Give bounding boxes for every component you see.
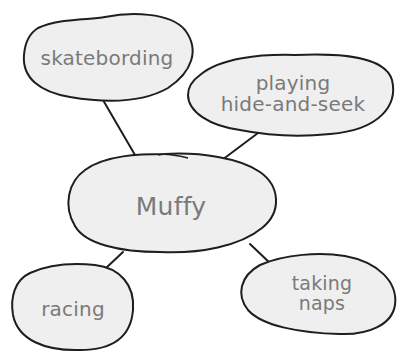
node-label-skateboarding: skatebording: [41, 48, 174, 69]
concept-map: skatebording playing hide-and-seek Muffy…: [0, 0, 411, 360]
connector-hide-and-seek: [222, 130, 262, 160]
node-label-taking-naps: taking naps: [292, 274, 353, 314]
connector-skateboarding: [103, 100, 135, 155]
connector-racing: [105, 252, 123, 269]
skateboarding-text: skatebording: [41, 46, 174, 70]
taking-naps-line2: naps: [292, 294, 353, 314]
center-text: Muffy: [136, 192, 206, 221]
racing-text: racing: [41, 297, 105, 321]
hide-and-seek-line2: hide-and-seek: [221, 94, 366, 115]
hide-and-seek-line1: playing: [221, 73, 366, 94]
node-label-hide-and-seek: playing hide-and-seek: [221, 73, 366, 115]
node-label-racing: racing: [41, 299, 105, 320]
taking-naps-line1: taking: [292, 274, 353, 294]
node-label-center: Muffy: [136, 194, 206, 220]
